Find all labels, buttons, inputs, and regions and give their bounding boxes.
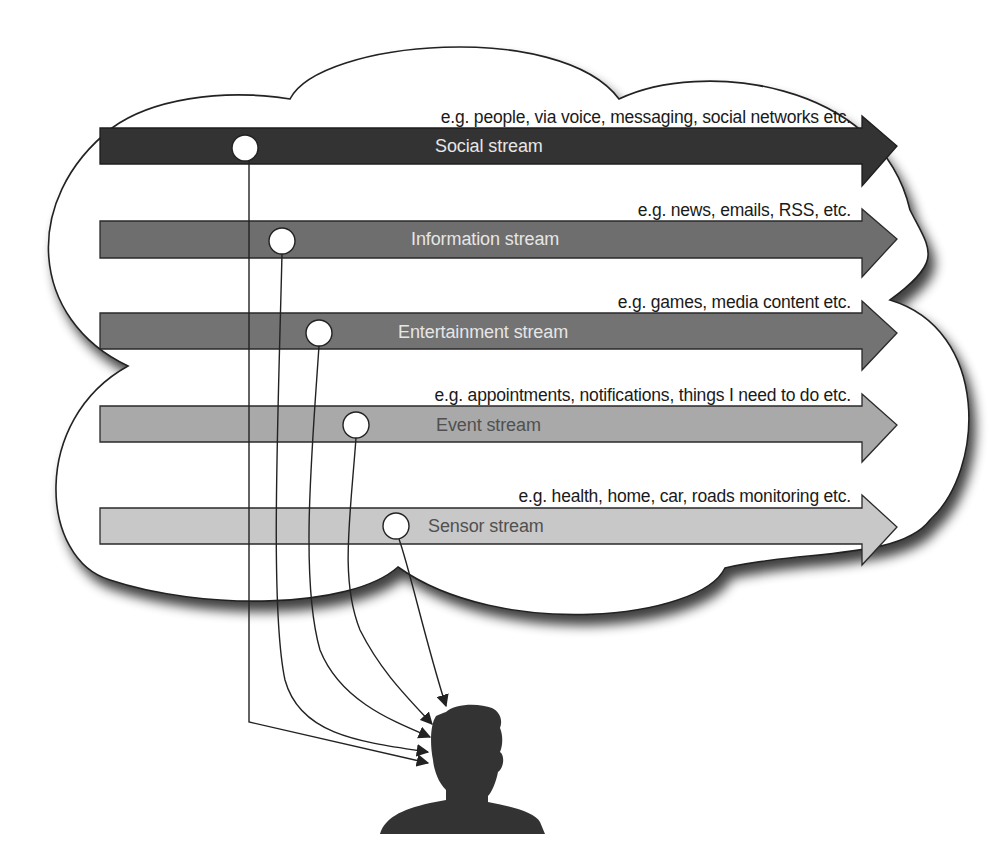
stream-node-information — [269, 228, 295, 254]
stream-examples-information: e.g. news, emails, RSS, etc. — [638, 200, 851, 221]
stream-examples-entertainment: e.g. games, media content etc. — [618, 292, 851, 313]
stream-examples-social: e.g. people, via voice, messaging, socia… — [441, 107, 851, 128]
stream-examples-sensor: e.g. health, home, car, roads monitoring… — [519, 486, 851, 507]
stream-node-sensor — [383, 513, 409, 539]
stream-name-sensor: Sensor stream — [428, 516, 544, 537]
stream-node-social — [232, 135, 258, 161]
streams-diagram: e.g. people, via voice, messaging, socia… — [0, 0, 1004, 862]
stream-node-event — [343, 412, 369, 438]
stream-name-entertainment: Entertainment stream — [398, 322, 568, 343]
stream-name-information: Information stream — [411, 229, 559, 250]
stream-examples-event: e.g. appointments, notifications, things… — [435, 385, 851, 406]
stream-name-social: Social stream — [435, 136, 543, 157]
stream-node-entertainment — [306, 320, 332, 346]
stream-name-event: Event stream — [436, 415, 541, 436]
person-silhouette-icon — [380, 705, 545, 834]
